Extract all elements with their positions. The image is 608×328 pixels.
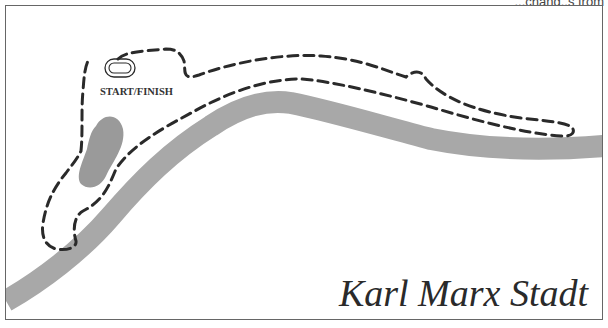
start-finish-label: START/FINISH [100, 86, 173, 97]
lake [79, 117, 124, 188]
map-title: Karl Marx Stadt [339, 271, 588, 315]
map-frame: START/FINISH Karl Marx Stadt [5, 5, 603, 320]
